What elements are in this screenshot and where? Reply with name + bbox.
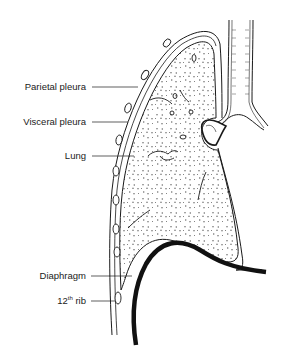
lung-body bbox=[120, 42, 238, 290]
label-parietal-pleura: Parietal pleura bbox=[14, 82, 86, 92]
label-lung: Lung bbox=[40, 151, 86, 161]
rib-word: rib bbox=[73, 295, 86, 306]
lung-pleura-diagram: Parietal pleura Visceral pleura Lung Dia… bbox=[0, 0, 284, 357]
rib-number: 12 bbox=[57, 295, 68, 306]
label-visceral-pleura: Visceral pleura bbox=[12, 117, 86, 127]
hilum-bronchus bbox=[202, 120, 226, 145]
label-diaphragm: Diaphragm bbox=[20, 271, 86, 281]
label-12th-rib: 12th rib bbox=[30, 296, 86, 306]
trachea bbox=[218, 20, 268, 130]
diaphragm-curve bbox=[134, 243, 266, 345]
